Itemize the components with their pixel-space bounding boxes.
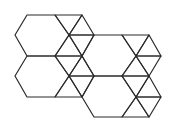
triangle-10 <box>136 56 161 76</box>
triangle-2 <box>69 35 94 56</box>
triangle-13 <box>136 76 161 97</box>
hex-bottom-left <box>15 56 69 97</box>
triangle-5 <box>69 56 94 76</box>
triangle-3 <box>55 35 82 56</box>
triangle-4 <box>55 56 82 76</box>
hex-top-left <box>15 15 69 56</box>
triangle-12 <box>122 76 149 97</box>
tessellation-figure <box>0 0 170 135</box>
triangle-15 <box>122 97 149 117</box>
triangle-11 <box>122 56 149 76</box>
triangle-8 <box>122 35 149 56</box>
triangle-14 <box>136 97 161 117</box>
triangle-9 <box>136 35 161 56</box>
triangle-6 <box>69 76 94 97</box>
triangle-7 <box>55 76 82 97</box>
triangle-0 <box>55 15 82 35</box>
triangle-1 <box>69 15 94 35</box>
tessellation-canvas <box>0 0 170 135</box>
